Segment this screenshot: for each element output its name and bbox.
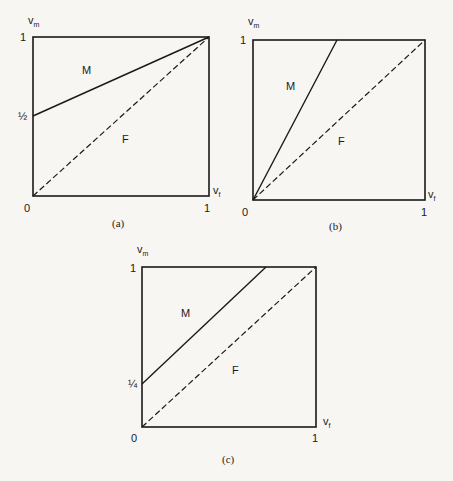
region-f-label: F bbox=[232, 364, 239, 376]
origin-label: 0 bbox=[131, 432, 137, 444]
y-axis-label: vm bbox=[248, 15, 260, 29]
panel-c: vm 1 ¼ 0 1 vf M F (c) bbox=[128, 243, 331, 466]
region-m-label: M bbox=[82, 64, 91, 76]
panel-a: vm 1 ½ 0 1 vf M F (a) bbox=[18, 14, 221, 230]
dashed-diagonal-line bbox=[33, 37, 209, 196]
region-f-label: F bbox=[338, 135, 345, 147]
y-intercept-label: ½ bbox=[18, 110, 27, 122]
region-m-label: M bbox=[181, 307, 190, 319]
y-axis-label: vm bbox=[28, 14, 40, 28]
y-max-label: 1 bbox=[130, 262, 136, 274]
dashed-diagonal-line bbox=[142, 267, 316, 427]
y-max-label: 1 bbox=[20, 31, 26, 43]
x-axis-label: vf bbox=[323, 415, 331, 429]
x-axis-label: vf bbox=[428, 188, 436, 202]
x-max-label: 1 bbox=[421, 206, 427, 218]
panel-caption: (b) bbox=[329, 220, 342, 233]
x-axis-label: vf bbox=[213, 184, 221, 198]
x-max-label: 1 bbox=[204, 202, 210, 214]
figure: vm 1 ½ 0 1 vf M F (a) vm 1 0 1 vf M F (b… bbox=[0, 0, 453, 481]
solid-boundary-line bbox=[142, 267, 266, 384]
region-f-label: F bbox=[122, 133, 129, 145]
y-axis-label: vm bbox=[137, 243, 149, 257]
y-max-label: 1 bbox=[240, 34, 246, 46]
origin-label: 0 bbox=[24, 202, 30, 214]
panel-caption: (c) bbox=[222, 453, 235, 466]
region-m-label: M bbox=[286, 80, 295, 92]
x-max-label: 1 bbox=[312, 432, 318, 444]
solid-boundary-line bbox=[33, 37, 209, 116]
panel-caption: (a) bbox=[112, 217, 125, 230]
origin-label: 0 bbox=[242, 206, 248, 218]
dashed-diagonal-line bbox=[253, 40, 425, 200]
y-intercept-label: ¼ bbox=[128, 378, 138, 390]
panel-b: vm 1 0 1 vf M F (b) bbox=[240, 15, 436, 233]
solid-boundary-line bbox=[253, 40, 337, 200]
